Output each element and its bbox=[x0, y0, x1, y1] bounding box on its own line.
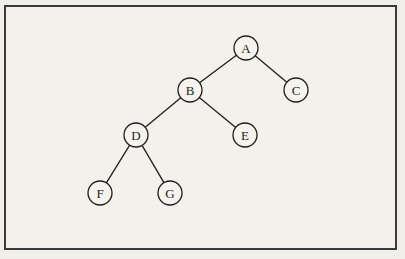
node-label: B bbox=[186, 83, 195, 98]
node-label: D bbox=[131, 128, 140, 143]
node-label: F bbox=[96, 186, 103, 201]
binary-tree-diagram: ABCDEFG bbox=[0, 0, 405, 259]
node-label: C bbox=[292, 83, 301, 98]
node-d: D bbox=[124, 123, 148, 147]
node-label: G bbox=[165, 186, 174, 201]
node-label: E bbox=[241, 128, 249, 143]
edge-d-g bbox=[142, 145, 164, 182]
edge-a-b bbox=[200, 55, 237, 83]
edge-d-f bbox=[106, 145, 129, 183]
node-c: C bbox=[284, 78, 308, 102]
edge-b-d bbox=[145, 98, 181, 128]
node-a: A bbox=[234, 36, 258, 60]
edge-a-c bbox=[255, 56, 287, 83]
node-f: F bbox=[88, 181, 112, 205]
node-g: G bbox=[158, 181, 182, 205]
edge-b-e bbox=[199, 98, 235, 128]
node-label: A bbox=[241, 41, 251, 56]
node-b: B bbox=[178, 78, 202, 102]
node-e: E bbox=[233, 123, 257, 147]
